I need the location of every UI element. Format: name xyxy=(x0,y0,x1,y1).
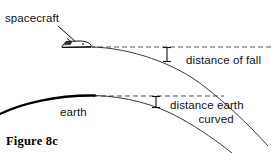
label-distance-earth-curved-line2: curved xyxy=(170,112,244,126)
label-distance-of-fall: distance of fall xyxy=(186,54,261,67)
label-earth: earth xyxy=(60,106,87,119)
spacecraft-shuttle-icon xyxy=(62,39,91,48)
figure-8c-diagram: spacecraft earth distance of fall distan… xyxy=(0,0,271,153)
distance-of-fall-dimension-marker xyxy=(163,47,171,62)
label-distance-earth-curved: distance earthcurved xyxy=(170,98,244,126)
label-distance-earth-curved-line1: distance earth xyxy=(170,99,244,111)
figure-caption: Figure 8c xyxy=(6,134,58,149)
spacecraft-leader-line xyxy=(58,26,76,42)
label-spacecraft: spacecraft xyxy=(5,12,59,25)
